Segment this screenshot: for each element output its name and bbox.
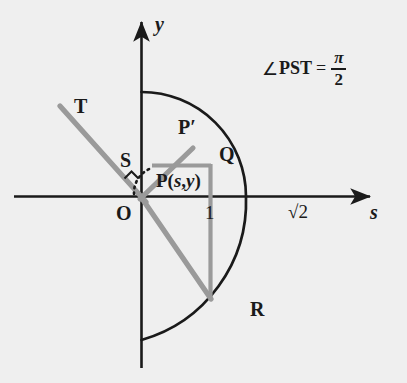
angle-name: PST bbox=[279, 58, 312, 79]
point-label-P-text: P( bbox=[156, 170, 174, 191]
equals-sign: = bbox=[316, 58, 326, 79]
segment-O-to-R bbox=[141, 197, 211, 299]
point-label-O: O bbox=[116, 203, 132, 223]
point-label-S: S bbox=[120, 150, 131, 170]
point-label-T: T bbox=[74, 96, 87, 116]
fraction-pi-over-2: π 2 bbox=[331, 49, 346, 89]
point-label-P-var-y: y bbox=[186, 170, 194, 191]
s-axis-label: s bbox=[370, 202, 378, 222]
tick-label-1: 1 bbox=[205, 203, 215, 222]
angle-symbol: ∠ bbox=[262, 58, 278, 80]
point-label-P-prime: P′ bbox=[178, 117, 196, 137]
point-label-P: P(s,y) bbox=[156, 171, 201, 190]
tick-label-sqrt2: √2 bbox=[288, 202, 308, 221]
fraction-numerator: π bbox=[331, 49, 346, 68]
point-label-Q: Q bbox=[219, 144, 235, 164]
point-label-R: R bbox=[250, 299, 264, 319]
angle-annotation: ∠PST = π 2 bbox=[262, 49, 346, 89]
geometry-figure: y s O T S P′ P(s,y) Q R 1 √2 ∠PST = π 2 bbox=[0, 0, 407, 383]
right-angle-mark bbox=[125, 172, 139, 179]
point-label-P-close: ) bbox=[195, 170, 201, 191]
y-axis-label: y bbox=[155, 14, 164, 34]
fraction-denominator: 2 bbox=[332, 70, 347, 89]
line-TS bbox=[60, 106, 146, 202]
